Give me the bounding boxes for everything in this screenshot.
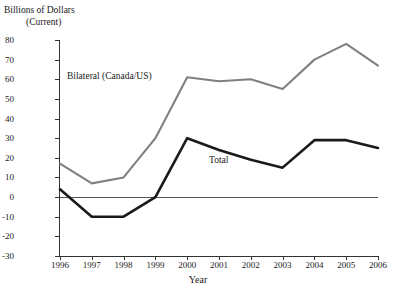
y-axis-title-line2: (Current) bbox=[26, 16, 61, 28]
y-tick-label: 20 bbox=[0, 153, 14, 163]
y-tick-label: 40 bbox=[0, 114, 14, 124]
series-label-bilateral: Bilateral (Canada/US) bbox=[67, 71, 152, 81]
y-tick-mark bbox=[55, 236, 60, 237]
y-tick-label: 30 bbox=[0, 133, 14, 143]
y-tick-label: 70 bbox=[0, 55, 14, 65]
y-tick-mark bbox=[55, 217, 60, 218]
series-line-total bbox=[60, 138, 378, 217]
zero-reference-line bbox=[60, 197, 378, 198]
y-tick-label: -30 bbox=[0, 251, 14, 261]
y-tick-label: 10 bbox=[0, 172, 14, 182]
y-tick-mark bbox=[55, 79, 60, 80]
y-tick-label: 60 bbox=[0, 74, 14, 84]
y-axis-line bbox=[59, 40, 60, 257]
x-tick-label: 2006 bbox=[358, 260, 396, 270]
x-axis-title: Year bbox=[0, 274, 396, 286]
y-tick-mark bbox=[55, 177, 60, 178]
y-tick-label: 50 bbox=[0, 94, 14, 104]
line-chart: Billions of Dollars (Current) 8070605040… bbox=[0, 0, 396, 296]
y-tick-label: -20 bbox=[0, 231, 14, 241]
y-tick-label: 0 bbox=[0, 192, 14, 202]
y-tick-mark bbox=[55, 99, 60, 100]
y-tick-mark bbox=[55, 197, 60, 198]
y-tick-mark bbox=[55, 40, 60, 41]
y-tick-mark bbox=[55, 138, 60, 139]
y-tick-label: 80 bbox=[0, 35, 14, 45]
y-tick-mark bbox=[55, 119, 60, 120]
y-axis-title-line1: Billions of Dollars bbox=[4, 4, 75, 16]
y-tick-mark bbox=[55, 158, 60, 159]
y-tick-label: -10 bbox=[0, 212, 14, 222]
series-label-total: Total bbox=[209, 155, 228, 165]
y-tick-mark bbox=[55, 60, 60, 61]
